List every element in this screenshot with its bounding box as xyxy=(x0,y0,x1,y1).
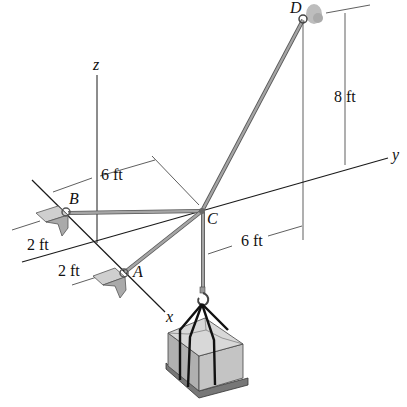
dimension-lines xyxy=(12,5,370,285)
statics-diagram: D z y x B C A 8 ft 6 ft 6 ft 2 ft 2 ft xyxy=(0,0,407,407)
label-d: D xyxy=(289,0,302,16)
label-a: A xyxy=(132,263,143,280)
labels: D z y x B C A 8 ft 6 ft 6 ft 2 ft 2 ft xyxy=(27,0,400,325)
label-x: x xyxy=(165,308,173,325)
dim-2ft-b: 2 ft xyxy=(27,236,49,253)
label-z: z xyxy=(92,56,100,73)
anchor-a xyxy=(93,268,128,298)
diagram-svg: D z y x B C A 8 ft 6 ft 6 ft 2 ft 2 ft xyxy=(0,0,407,407)
dim-6ft-bottom: 6 ft xyxy=(241,232,263,249)
wall-support-d xyxy=(306,4,323,24)
anchor-b xyxy=(36,206,70,236)
hook xyxy=(198,287,208,305)
dim-6ft-top: 6 ft xyxy=(101,166,123,183)
cables xyxy=(68,15,307,290)
dim-2ft-a: 2 ft xyxy=(58,262,80,279)
knot-c xyxy=(199,208,205,214)
x-axis xyxy=(32,180,165,312)
label-y: y xyxy=(390,146,400,164)
label-b: B xyxy=(69,190,79,207)
dim-8ft: 8 ft xyxy=(334,88,356,105)
crate xyxy=(166,304,248,398)
label-c: C xyxy=(207,210,218,227)
